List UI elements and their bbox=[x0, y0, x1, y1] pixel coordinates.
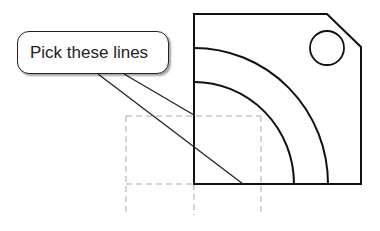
hole-circle[interactable] bbox=[310, 31, 344, 65]
inner-arc[interactable] bbox=[194, 82, 294, 184]
part-outline[interactable] bbox=[194, 14, 361, 184]
callout-text: Pick these lines bbox=[30, 43, 148, 63]
callout-box: Pick these lines bbox=[17, 31, 169, 74]
callout-leader-lines bbox=[98, 74, 243, 184]
